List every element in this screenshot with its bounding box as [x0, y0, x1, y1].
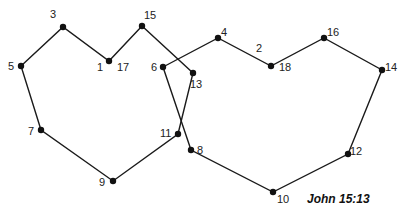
dot-8: [188, 147, 194, 153]
label-4: 4: [221, 26, 227, 38]
dot-10: [270, 189, 276, 195]
dot-18: [268, 63, 274, 69]
verse-caption: John 15:13: [307, 192, 370, 206]
label-12: 12: [350, 145, 362, 157]
left-heart-outline: [21, 26, 193, 181]
label-10: 10: [277, 193, 289, 205]
dot-markers: [18, 23, 385, 195]
label-14: 14: [385, 61, 397, 73]
label-17: 17: [117, 61, 129, 73]
label-15: 15: [144, 9, 156, 21]
right-heart-outline: [163, 38, 382, 192]
label-11: 11: [160, 127, 171, 139]
label-13: 13: [190, 78, 202, 90]
label-6: 6: [151, 61, 157, 73]
label-5: 5: [8, 60, 14, 72]
dot-3: [60, 24, 66, 30]
dot-7: [38, 127, 44, 133]
label-3: 3: [50, 8, 56, 20]
number-labels: 123456789101112131415161718: [8, 8, 397, 205]
label-9: 9: [99, 176, 105, 188]
label-7: 7: [28, 125, 34, 137]
dot-15: [139, 23, 145, 29]
connect-the-dots-diagram: 123456789101112131415161718 John 15:13: [0, 0, 405, 207]
label-1: 1: [97, 61, 103, 73]
dot-13: [190, 70, 196, 76]
dot-6: [160, 64, 166, 70]
label-8: 8: [197, 144, 203, 156]
dot-5: [18, 63, 24, 69]
label-16: 16: [327, 26, 339, 38]
dot-1: [106, 58, 112, 64]
label-18: 18: [279, 61, 291, 73]
dot-9: [110, 178, 116, 184]
label-2: 2: [256, 42, 262, 54]
dot-11: [175, 131, 181, 137]
